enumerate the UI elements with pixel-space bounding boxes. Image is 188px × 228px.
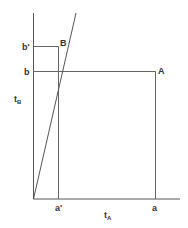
x-axis-label-sub: A — [107, 215, 112, 221]
diagram-canvas: b' B b A tB a' a tA — [0, 0, 188, 228]
label-a-prime: a' — [55, 203, 62, 213]
label-point-B: B — [60, 38, 67, 48]
x-axis-label: tA — [104, 210, 112, 221]
label-b: b — [24, 67, 30, 77]
label-a: a — [152, 203, 158, 213]
diagonal-line — [34, 13, 77, 199]
y-axis-label-sub: B — [17, 99, 22, 105]
label-point-A: A — [158, 66, 165, 76]
y-axis-label: tB — [14, 94, 22, 105]
label-b-prime: b' — [22, 42, 30, 52]
